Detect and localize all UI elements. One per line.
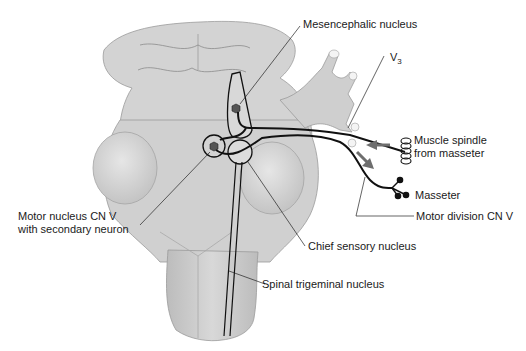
label-muscle-spindle-line2: from masseter: [414, 147, 487, 160]
masseter-endplate-icon: [392, 177, 409, 198]
label-chief-sensory-nucleus: Chief sensory nucleus: [308, 240, 416, 253]
label-motor-nucleus-line1: Motor nucleus CN V: [18, 210, 129, 223]
label-mesencephalic-nucleus: Mesencephalic nucleus: [303, 18, 417, 31]
label-spinal-trigeminal-nucleus: Spinal trigeminal nucleus: [262, 278, 384, 291]
brainstem-diagram: [0, 0, 526, 351]
label-masseter: Masseter: [415, 189, 460, 202]
label-motor-division: Motor division CN V: [416, 210, 513, 223]
label-v3-subscript: 3: [397, 57, 401, 66]
label-muscle-spindle-line1: Muscle spindle: [414, 134, 487, 147]
label-motor-nucleus-line2: with secondary neuron: [18, 223, 129, 236]
label-motor-nucleus: Motor nucleus CN V with secondary neuron: [18, 210, 129, 236]
brainstem: [93, 21, 318, 340]
label-v3: V3: [390, 51, 402, 68]
mesencephalic-neuron-icon: [232, 104, 240, 113]
label-muscle-spindle: Muscle spindle from masseter: [414, 134, 487, 160]
